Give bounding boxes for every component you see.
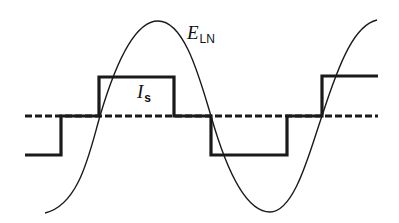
current-label-sub: s: [144, 91, 151, 105]
current-label: Is: [137, 82, 151, 101]
voltage-label-main: E: [187, 22, 199, 43]
current-label-main: I: [137, 81, 143, 102]
waveform-diagram: ELN Is: [0, 0, 399, 223]
voltage-label-sub: LN: [200, 32, 215, 46]
voltage-label: ELN: [187, 23, 215, 42]
